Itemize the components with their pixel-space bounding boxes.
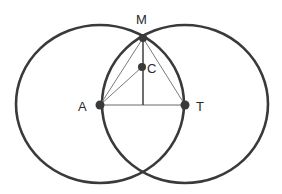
geometry-diagram: M C A T (0, 0, 282, 194)
label-c: C (147, 61, 156, 76)
point-m (139, 34, 147, 42)
point-a (96, 101, 105, 110)
label-a: A (78, 99, 87, 114)
point-c (138, 63, 146, 71)
label-m: M (136, 12, 147, 27)
label-t: T (196, 99, 204, 114)
point-t (181, 101, 190, 110)
